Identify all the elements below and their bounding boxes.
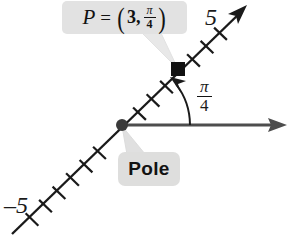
pole-label: Pole [128,158,169,180]
point-p-open-paren: ( [117,6,125,30]
polar-coordinate-figure [0,0,289,236]
point-p-radius: 3 [127,7,136,28]
point-p-callout-box: P = ( 3 , π 4 ) [62,1,187,34]
angle-denominator: 4 [197,96,212,115]
angle-arc-arrowhead [170,77,186,93]
axis-label-negative-five: –5 [4,193,28,217]
point-p-variable: P [82,5,95,30]
point-p-angle-fraction: π 4 [144,4,156,30]
point-p-comma: , [136,7,141,28]
angle-fraction: π 4 [197,78,212,115]
angle-arc [176,84,190,125]
point-p-marker [171,62,185,76]
pole-callout-box: Pole [118,152,180,186]
pole-point-marker [116,119,128,131]
angle-numerator: π [198,78,211,96]
axis-label-positive-five: 5 [205,5,217,29]
point-p-angle-numerator: π [145,4,155,17]
point-p-close-paren: ) [158,6,166,30]
point-p-expression: P = ( 3 , π 4 ) [82,4,166,30]
angle-measure-label: π 4 [196,78,213,115]
point-p-angle-denominator: 4 [144,17,156,31]
point-p-equals: = [100,7,111,29]
